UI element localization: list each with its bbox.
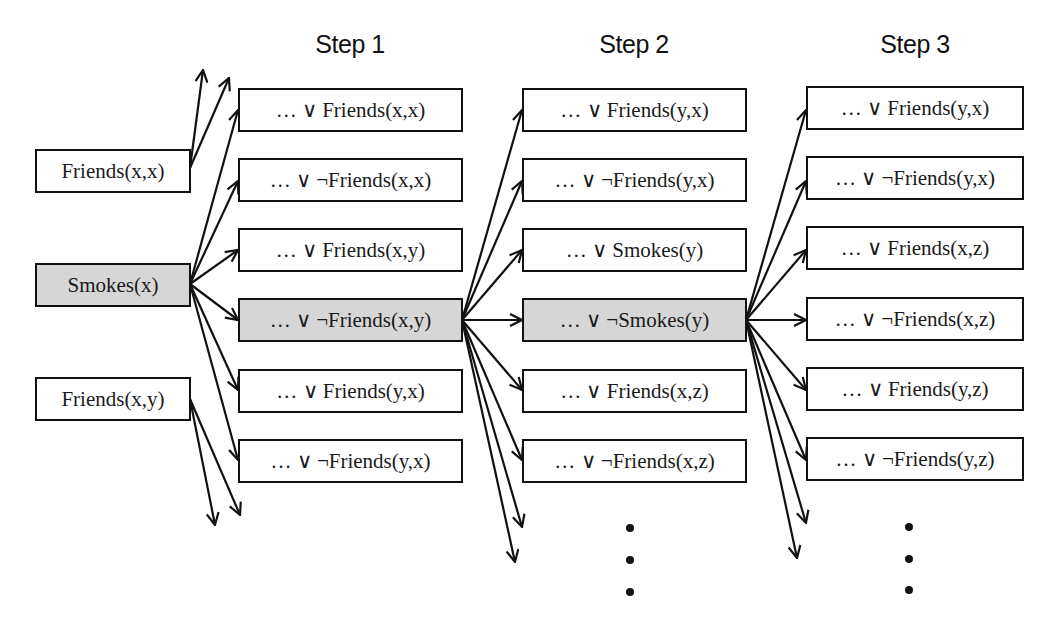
edge [746,320,806,523]
edge [746,320,806,390]
ellipsis-dot [626,588,634,596]
ellipsis-dot [905,523,913,531]
edge [746,181,806,320]
step3-clause: … ∨ ¬Friends(x,z) [806,297,1024,341]
edge [462,181,522,320]
edge [746,320,797,558]
edge [462,110,522,320]
ellipsis-dot [905,555,913,563]
step1-clause: … ∨ Friends(x,y) [238,228,463,272]
step2-clause: … ∨ Smokes(y) [522,228,747,272]
step2-clause: … ∨ Friends(x,z) [522,369,747,413]
ellipsis-dot [626,524,634,532]
step3-clause: … ∨ Friends(x,z) [806,226,1024,270]
edge [746,110,806,320]
edge [462,320,522,460]
step2-clause: … ∨ Friends(y,x) [522,88,747,132]
edge [462,320,522,527]
ellipsis-dot [905,586,913,594]
step1-clause: … ∨ ¬Friends(y,x) [238,439,463,483]
step3-clause: … ∨ Friends(y,z) [806,367,1024,411]
step2-clause: … ∨ ¬Friends(y,x) [522,158,747,202]
step1-clause: … ∨ Friends(x,x) [238,88,463,132]
step1-clause-selected: … ∨ ¬Friends(x,y) [238,298,463,342]
edge [746,320,806,460]
diagram-canvas: Step 1 Step 2 Step 3 [0,0,1060,626]
step2-clause: … ∨ ¬Friends(x,z) [522,439,747,483]
edge [190,399,240,515]
step3-clause: … ∨ Friends(y,x) [806,86,1024,130]
edge [462,320,515,562]
step2-clause-selected: … ∨ ¬Smokes(y) [522,298,747,342]
step3-clause: … ∨ ¬Friends(y,x) [806,156,1024,200]
step1-clause: … ∨ Friends(y,x) [238,369,463,413]
edge [190,399,215,525]
literal-friends-x-y: Friends(x,y) [35,377,191,421]
step3-clause: … ∨ ¬Friends(y,z) [806,437,1024,481]
step1-clause: … ∨ ¬Friends(x,x) [238,158,463,202]
literal-smokes-x: Smokes(x) [35,263,191,307]
ellipsis-dot [626,556,634,564]
literal-friends-x-x: Friends(x,x) [35,149,191,193]
